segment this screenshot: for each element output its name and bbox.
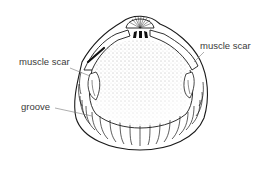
shell-illustration xyxy=(0,0,268,170)
hinge-teeth xyxy=(133,31,148,38)
shell-diagram: muscle scar muscle scar groove xyxy=(0,0,268,170)
label-left-muscle-scar: muscle scar xyxy=(19,57,70,67)
label-groove: groove xyxy=(21,102,50,112)
label-right-muscle-scar: muscle scar xyxy=(200,41,251,51)
